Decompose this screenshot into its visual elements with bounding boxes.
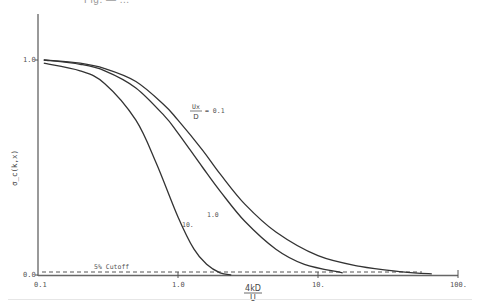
x-tick-label-1: 1.0 (172, 281, 185, 289)
curve-label-1-0: 1.0 (207, 211, 219, 219)
chart: 1.0 0.0 0.1 1.0 10. 100. σ_c(k,x) 4kD U … (0, 0, 480, 308)
curve-1-0 (44, 60, 343, 273)
cutoff-label: 5% Cutoff (94, 263, 129, 271)
y-tick-label-0: 0.0 (23, 271, 36, 279)
y-axis-label: σ_c(k,x) (10, 150, 19, 186)
x-tick-label-2: 10. (312, 281, 325, 289)
legend-denominator: D (193, 113, 198, 121)
curve-0-1 (44, 60, 432, 274)
x-axis-label-numerator: 4kD (245, 284, 261, 293)
curve-label-0-1: = 0.1 (205, 107, 225, 115)
x-tick-label-0: 0.1 (34, 281, 47, 289)
curve-label-10: 10. (182, 221, 194, 229)
x-tick-label-3: 100. (450, 281, 467, 289)
legend-numerator: Ux (192, 103, 200, 111)
page-bottom-rule (8, 299, 472, 300)
y-tick-label-1: 1.0 (23, 56, 36, 64)
